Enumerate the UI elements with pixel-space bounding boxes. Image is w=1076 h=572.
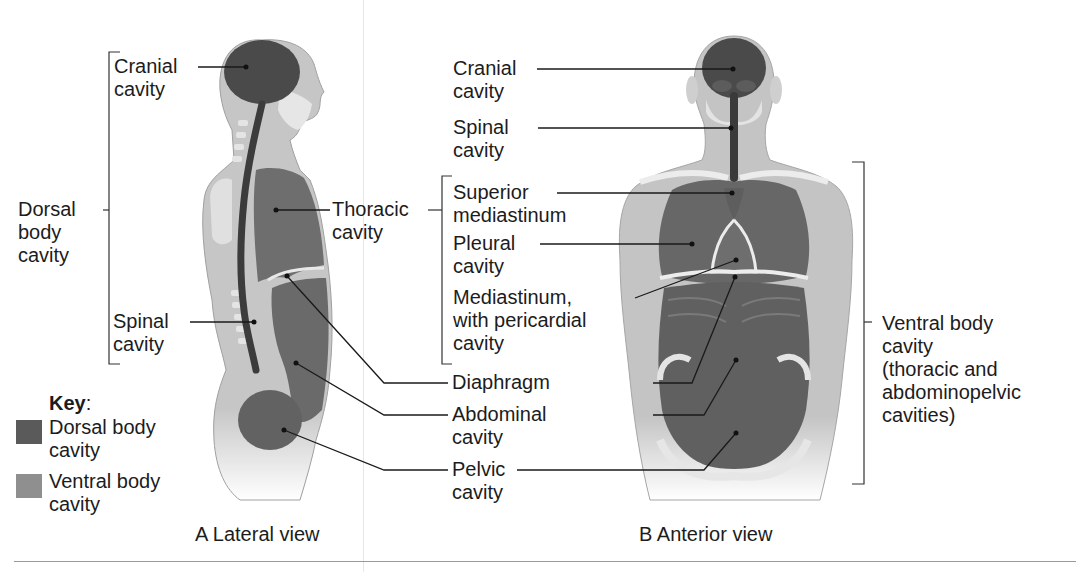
label-pelvic-cavity: Pelvic cavity bbox=[452, 458, 505, 504]
label-cranial-cavity-anterior: Cranial cavity bbox=[453, 57, 516, 103]
label-pleural-cavity: Pleural cavity bbox=[453, 232, 515, 278]
label-cranial-cavity-lateral: Cranial cavity bbox=[114, 55, 177, 101]
label-abdominal-cavity: Abdominal cavity bbox=[452, 403, 547, 449]
label-ventral-body-cavity: Ventral body cavity (thoracic and abdomi… bbox=[882, 312, 1021, 427]
caption-lateral-view: A Lateral view bbox=[195, 522, 320, 546]
label-dorsal-body-cavity: Dorsal body cavity bbox=[18, 198, 76, 267]
key-swatch-ventral bbox=[16, 474, 42, 498]
label-diaphragm: Diaphragm bbox=[452, 371, 550, 394]
key-title: Key: bbox=[49, 392, 91, 415]
anterior-body-silhouette bbox=[619, 36, 852, 500]
lateral-body-silhouette bbox=[203, 40, 332, 500]
bottom-rule bbox=[14, 561, 1076, 562]
caption-anterior-view: B Anterior view bbox=[639, 522, 772, 546]
key-label-dorsal: Dorsal body cavity bbox=[49, 416, 156, 462]
label-thoracic-cavity: Thoracic cavity bbox=[332, 198, 409, 244]
label-spinal-cavity-lateral: Spinal cavity bbox=[113, 310, 169, 356]
key-label-ventral: Ventral body cavity bbox=[49, 470, 160, 516]
label-superior-mediastinum: Superior mediastinum bbox=[453, 181, 566, 227]
label-spinal-cavity-anterior: Spinal cavity bbox=[453, 116, 509, 162]
label-mediastinum-pericardial: Mediastinum, with pericardial cavity bbox=[453, 286, 586, 355]
key-swatch-dorsal bbox=[16, 420, 42, 444]
